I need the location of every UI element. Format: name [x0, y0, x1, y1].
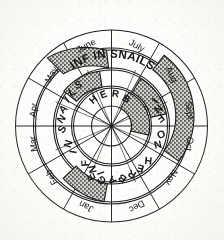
- herb-glyph-1: H: [87, 93, 100, 106]
- circular-month-diagram: June July Aug Sept Oct Nov Dec Jan Feb M…: [0, 0, 224, 240]
- snails2-glyph-3: F: [78, 159, 90, 167]
- snails2-glyph-5: I: [66, 149, 78, 154]
- diagram-canvas: June July Aug Sept Oct Nov Dec Jan Feb M…: [0, 0, 224, 240]
- month-label-dec: Dec: [127, 198, 146, 215]
- month-label-feb: Feb: [43, 168, 59, 187]
- diagram-ink: June July Aug Sept Oct Nov Dec Jan Feb M…: [16, 30, 208, 222]
- month-label-nov: Nov: [163, 168, 180, 187]
- month-label-oct: Oct: [183, 136, 195, 152]
- month-label-apr: Apr: [28, 102, 40, 118]
- herb-glyph-3: R: [111, 88, 120, 100]
- herbage-glyph-6: N: [153, 138, 163, 151]
- snails2-glyph-6: N: [61, 138, 75, 149]
- month-label-mar: Mar: [27, 135, 39, 152]
- month-label-jan: Jan: [77, 199, 95, 215]
